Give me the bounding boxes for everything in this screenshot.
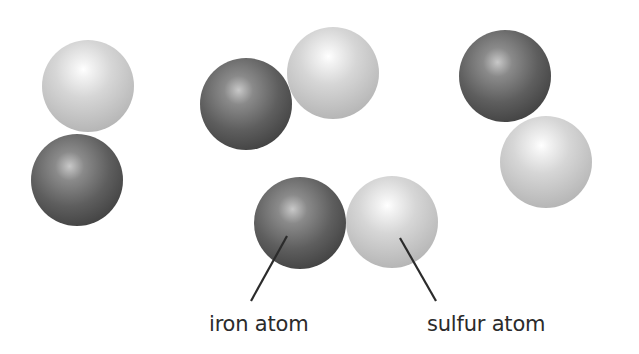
leader-lines [0,0,639,354]
sulfur-atom-label: sulfur atom [427,312,545,336]
iron-atom-label: iron atom [209,312,308,336]
iron-leader-line [251,236,287,301]
sulfur-leader-line [400,238,436,301]
iron-sulfur-atoms-diagram: iron atom sulfur atom [0,0,639,354]
